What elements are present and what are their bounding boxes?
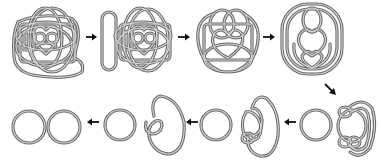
- arrow-left-icon: [186, 119, 198, 126]
- knot-simplification-diagram: Sequence of knot diagrams being simplifi…: [0, 0, 381, 164]
- knot-step-8-two-circles: [13, 111, 80, 143]
- knot-step-4: [282, 4, 342, 74]
- arrow-down-right-icon: [325, 84, 336, 95]
- diagram-canvas: [0, 0, 381, 164]
- knot-step-2: [102, 8, 171, 71]
- arrow-left-icon: [87, 119, 99, 126]
- arrow-right-icon: [86, 34, 97, 41]
- arrow-left-icon: [284, 119, 296, 126]
- arrow-right-icon: [178, 34, 190, 41]
- knot-step-3: [198, 10, 258, 72]
- knot-step-1: [14, 8, 83, 77]
- knot-step-7: [105, 96, 184, 154]
- knot-step-5: [301, 102, 375, 155]
- knot-step-6: [201, 97, 278, 156]
- arrow-right-icon: [263, 34, 275, 41]
